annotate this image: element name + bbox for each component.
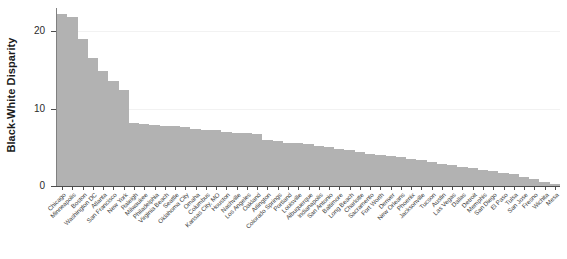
x-tick-mark	[514, 186, 515, 190]
bar	[262, 140, 272, 186]
x-tick-mark	[267, 186, 268, 190]
x-tick-mark	[103, 186, 104, 190]
x-tick-mark	[216, 186, 217, 190]
bar	[129, 123, 139, 186]
bar	[139, 124, 149, 186]
bar	[283, 143, 293, 186]
bar	[386, 156, 396, 186]
x-tick-mark	[288, 186, 289, 190]
x-tick-mark	[72, 186, 73, 190]
x-tick-mark	[319, 186, 320, 190]
plot-area	[57, 8, 560, 186]
x-tick-mark	[247, 186, 248, 190]
bar	[273, 141, 283, 186]
bar	[201, 130, 211, 186]
x-tick-mark	[350, 186, 351, 190]
bar	[355, 152, 365, 186]
bar	[252, 134, 262, 186]
x-tick-mark	[442, 186, 443, 190]
x-tick-mark	[462, 186, 463, 190]
bar	[170, 126, 180, 186]
x-tick-label: Mesa	[550, 191, 560, 259]
y-axis-line	[56, 8, 57, 186]
x-tick-mark	[534, 186, 535, 190]
x-tick-mark	[309, 186, 310, 190]
bar	[334, 149, 344, 186]
x-tick-mark	[134, 186, 135, 190]
bar	[498, 173, 508, 186]
bar	[78, 39, 88, 186]
x-tick-mark	[124, 186, 125, 190]
x-tick-mark	[401, 186, 402, 190]
x-tick-mark	[278, 186, 279, 190]
bar	[396, 157, 406, 186]
bar	[509, 174, 519, 186]
y-tick-label: 20	[19, 25, 45, 36]
x-tick-mark	[421, 186, 422, 190]
bar	[344, 150, 354, 186]
bar	[57, 14, 67, 186]
bar	[427, 162, 437, 186]
x-tick-mark	[483, 186, 484, 190]
y-tick-label: 10	[19, 103, 45, 114]
bar	[529, 179, 539, 186]
x-tick-mark	[380, 186, 381, 190]
bar	[149, 125, 159, 186]
x-tick-mark	[493, 186, 494, 190]
bar	[67, 17, 77, 186]
bar	[406, 159, 416, 186]
bar	[478, 170, 488, 186]
x-tick-mark	[62, 186, 63, 190]
bar	[211, 130, 221, 186]
x-tick-mark	[237, 186, 238, 190]
bar	[519, 177, 529, 186]
bar	[160, 126, 170, 186]
x-tick-mark	[93, 186, 94, 190]
x-tick-mark	[391, 186, 392, 190]
bar	[303, 144, 313, 186]
bar	[293, 143, 303, 186]
x-tick-mark	[83, 186, 84, 190]
x-tick-mark	[545, 186, 546, 190]
x-tick-mark	[524, 186, 525, 190]
x-tick-mark	[504, 186, 505, 190]
bar	[488, 171, 498, 186]
bar	[416, 160, 426, 186]
x-tick-mark	[360, 186, 361, 190]
x-tick-mark	[206, 186, 207, 190]
bar	[468, 168, 478, 186]
x-tick-mark	[473, 186, 474, 190]
x-tick-mark	[226, 186, 227, 190]
x-tick-mark	[144, 186, 145, 190]
x-tick-mark	[432, 186, 433, 190]
bar	[375, 155, 385, 186]
x-tick-mark	[196, 186, 197, 190]
x-tick-mark	[555, 186, 556, 190]
x-tick-mark	[339, 186, 340, 190]
x-tick-mark	[185, 186, 186, 190]
x-tick-mark	[370, 186, 371, 190]
bar	[457, 167, 467, 186]
bar	[242, 133, 252, 186]
bar	[98, 71, 108, 186]
x-axis-labels: ChicagoMinneapolisBostonWashington DCAtl…	[57, 191, 560, 259]
x-tick-mark	[257, 186, 258, 190]
bar	[232, 133, 242, 186]
bar	[119, 90, 129, 186]
bar	[314, 146, 324, 186]
x-tick-mark	[452, 186, 453, 190]
bar	[108, 81, 118, 186]
bar	[437, 164, 447, 186]
x-tick-mark	[165, 186, 166, 190]
x-tick-mark	[411, 186, 412, 190]
x-tick-mark	[329, 186, 330, 190]
bar	[324, 147, 334, 186]
bar	[180, 127, 190, 186]
bar	[88, 58, 98, 186]
x-tick-mark	[175, 186, 176, 190]
x-tick-mark	[113, 186, 114, 190]
x-tick-mark	[298, 186, 299, 190]
bar	[365, 154, 375, 187]
bar	[221, 132, 231, 186]
bar-series	[57, 8, 560, 186]
